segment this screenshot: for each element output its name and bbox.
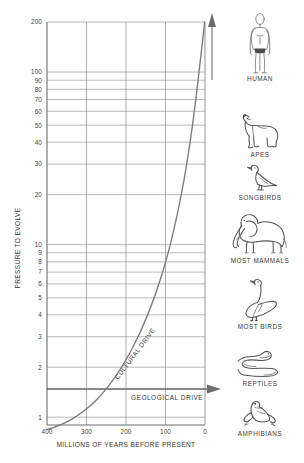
- x-tick-400: 400: [42, 428, 53, 435]
- organism-label-apes: APES: [216, 151, 304, 159]
- elephant-icon: [229, 212, 291, 256]
- organism-label-most-birds: MOST BIRDS: [216, 323, 304, 331]
- cultural-drive-label: CULTURAL DRIVE: [113, 326, 156, 380]
- songbird-icon: [238, 163, 282, 193]
- geological-drive-label: GEOLOGICAL DRIVE: [131, 394, 203, 401]
- organism-label-most-mammals: MOST MAMMALS: [216, 257, 304, 265]
- organism-amphibians: AMPHIBIANS: [216, 399, 304, 438]
- organism-apes: APES: [216, 108, 304, 159]
- y-tick-50: 50: [35, 122, 43, 129]
- y-tick-9: 9: [38, 249, 42, 256]
- goose-icon: [236, 278, 284, 322]
- y-tick-20: 20: [35, 191, 43, 198]
- y-tick-60: 60: [35, 108, 43, 115]
- evolution-pressure-figure: 200 100 90 80 70 60 50 40 30 20 10 9 8 7…: [0, 0, 304, 463]
- y-tick-80: 80: [35, 86, 43, 93]
- y-tick-5: 5: [38, 294, 42, 301]
- y-tick-1: 1: [38, 414, 42, 421]
- organism-label-reptiles: REPTILES: [216, 380, 304, 388]
- y-tick-200: 200: [31, 18, 42, 25]
- pressure-arrow-head: [208, 13, 216, 27]
- organism-songbirds: SONGBIRDS: [216, 163, 304, 202]
- x-tick-100: 100: [160, 428, 171, 435]
- y-tick-3: 3: [38, 333, 42, 340]
- y-tick-labels: 200 100 90 80 70 60 50 40 30 20 10 9 8 7…: [31, 18, 42, 420]
- x-tick-300: 300: [81, 428, 92, 435]
- organism-reptiles: REPTILES: [216, 347, 304, 388]
- organism-label-amphibians: AMPHIBIANS: [216, 430, 304, 438]
- organism-most-birds: MOST BIRDS: [216, 278, 304, 331]
- organism-label-human: HUMAN: [216, 75, 304, 83]
- frog-icon: [236, 399, 284, 429]
- y-tick-70: 70: [35, 96, 43, 103]
- y-tick-10: 10: [35, 241, 43, 248]
- pressure-axis-arrow: [208, 13, 216, 80]
- y-tick-2: 2: [38, 364, 42, 371]
- organism-column: HUMAN APES: [216, 0, 304, 463]
- y-tick-8: 8: [38, 258, 42, 265]
- y-tick-30: 30: [35, 160, 43, 167]
- x-axis-title: MILLIONS OF YEARS BEFORE PRESENT: [57, 441, 196, 448]
- y-tick-6: 6: [38, 280, 42, 287]
- y-tick-4: 4: [38, 311, 42, 318]
- x-tick-0: 0: [203, 428, 207, 435]
- gorilla-icon: [236, 108, 284, 150]
- organism-human: HUMAN: [216, 12, 304, 83]
- y-tick-7: 7: [38, 268, 42, 275]
- x-tick-200: 200: [121, 428, 132, 435]
- y-tick-40: 40: [35, 139, 43, 146]
- human-figure-icon: [240, 12, 280, 74]
- organism-label-songbirds: SONGBIRDS: [216, 194, 304, 202]
- y-tick-100: 100: [31, 68, 42, 75]
- y-tick-90: 90: [35, 77, 43, 84]
- y-axis-title: PRESSURE TO EVOLVE: [14, 207, 21, 288]
- organism-most-mammals: MOST MAMMALS: [216, 212, 304, 265]
- geological-drive-line: [47, 385, 221, 394]
- snake-icon: [234, 347, 286, 379]
- x-tick-labels: 400 300 200 100 0: [42, 428, 208, 435]
